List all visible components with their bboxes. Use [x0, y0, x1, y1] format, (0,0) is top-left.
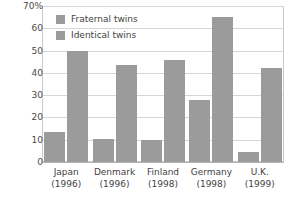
x-axis-tick-label: Japan(1996)	[42, 166, 90, 190]
x-axis-tick-label: Germany(1998)	[187, 166, 235, 190]
y-axis-tick-label: 70%	[3, 2, 43, 11]
bar	[93, 139, 114, 162]
bar	[212, 17, 233, 162]
bar-groups	[42, 6, 284, 162]
bar	[141, 140, 162, 162]
x-axis-category-year: (1996)	[42, 178, 90, 190]
bar	[238, 152, 259, 162]
x-axis-category-year: (1998)	[187, 178, 235, 190]
bar-group	[187, 6, 235, 162]
x-axis-category-year: (1999)	[236, 178, 284, 190]
x-axis-category-name: Finland	[147, 167, 179, 177]
bar-group	[90, 6, 138, 162]
x-axis-tick-labels: Japan(1996)Denmark(1996)Finland(1998)Ger…	[42, 166, 284, 202]
x-axis-category-year: (1996)	[90, 178, 138, 190]
bar	[67, 51, 88, 162]
y-axis-tick-label: 60	[3, 24, 43, 33]
y-axis-tick-label: 30	[3, 91, 43, 100]
x-axis-category-name: Japan	[54, 167, 79, 177]
y-axis-tick-label: 50	[3, 47, 43, 56]
bar-group	[139, 6, 187, 162]
y-axis-tick-label: 10	[3, 136, 43, 145]
bar	[164, 60, 185, 163]
y-axis-tick-label: 40	[3, 69, 43, 78]
x-axis-category-year: (1998)	[139, 178, 187, 190]
bar	[116, 65, 137, 162]
gridline	[42, 162, 284, 163]
bar	[189, 100, 210, 162]
x-axis-category-name: Denmark	[94, 167, 135, 177]
x-axis-tick-label: Denmark(1996)	[90, 166, 138, 190]
y-axis-tick-label: 0	[3, 158, 43, 167]
bar-group	[42, 6, 90, 162]
bar	[261, 68, 282, 162]
x-axis-category-name: Germany	[191, 167, 232, 177]
x-axis-tick-label: U.K.(1999)	[236, 166, 284, 190]
x-axis-tick-label: Finland(1998)	[139, 166, 187, 190]
bar-group	[236, 6, 284, 162]
bar-chart: 010203040506070% Fraternal twinsIdentica…	[0, 0, 290, 206]
y-axis-tick-label: 20	[3, 113, 43, 122]
bar	[44, 132, 65, 162]
x-axis-category-name: U.K.	[251, 167, 269, 177]
